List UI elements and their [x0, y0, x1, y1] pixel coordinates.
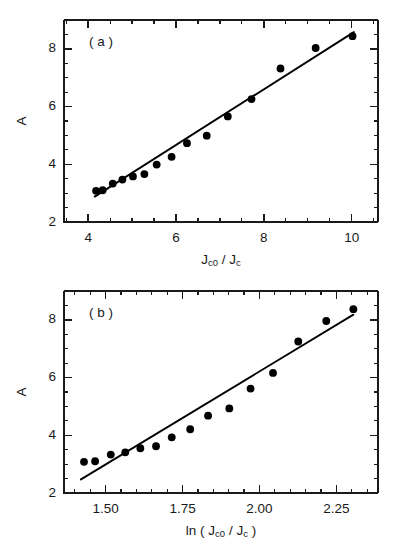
data-point — [168, 433, 176, 441]
fit-line — [81, 315, 353, 480]
x-tick-label: 1.50 — [92, 501, 118, 516]
data-point — [224, 112, 232, 120]
x-tick-label: 4 — [84, 230, 92, 245]
plot-frame — [64, 291, 378, 493]
y-tick-label: 6 — [48, 98, 56, 113]
data-point — [204, 412, 212, 420]
data-point — [248, 95, 256, 103]
plot-frame — [64, 20, 378, 222]
panel-a-plot: 468102468( a )AJc0 / Jc — [0, 0, 395, 272]
y-major-ticks: 2468 — [48, 311, 378, 499]
figure-container: 468102468( a )AJc0 / Jc 1.501.752.002.25… — [0, 0, 395, 543]
data-point — [92, 187, 100, 195]
x-major-ticks: 1.501.752.002.25 — [92, 291, 349, 516]
data-points — [80, 305, 357, 465]
panel-tag: ( a ) — [89, 34, 113, 49]
y-tick-label: 4 — [48, 156, 56, 171]
data-point — [186, 425, 194, 433]
data-point — [247, 385, 255, 393]
panel-tag: ( b ) — [89, 305, 113, 320]
panel-a: 468102468( a )AJc0 / Jc — [0, 0, 395, 272]
data-point — [153, 161, 161, 169]
y-axis-label: A — [14, 116, 29, 125]
data-point — [99, 186, 107, 194]
x-tick-label: 1.75 — [169, 501, 195, 516]
y-tick-label: 4 — [48, 427, 56, 442]
data-point — [225, 405, 233, 413]
data-point — [349, 305, 357, 313]
y-tick-label: 6 — [48, 369, 56, 384]
y-tick-label: 2 — [48, 485, 56, 500]
x-tick-label: 2.25 — [323, 501, 349, 516]
x-major-ticks: 46810 — [84, 20, 359, 245]
data-point — [277, 65, 285, 73]
data-point — [121, 448, 129, 456]
y-minor-ticks — [64, 20, 378, 222]
x-tick-label: 10 — [344, 230, 359, 245]
x-axis-label: ln ( Jc0 / Jc ) — [186, 523, 256, 539]
data-point — [294, 338, 302, 346]
data-point — [119, 176, 127, 184]
x-minor-ticks — [66, 20, 373, 222]
x-tick-label: 8 — [260, 230, 268, 245]
fit-line — [95, 32, 354, 196]
y-axis-label: A — [14, 387, 29, 396]
data-point — [136, 444, 144, 452]
data-point — [129, 173, 137, 181]
data-point — [349, 32, 357, 40]
x-tick-label: 6 — [172, 230, 180, 245]
data-point — [80, 458, 88, 466]
data-point — [203, 132, 211, 140]
y-tick-label: 2 — [48, 214, 56, 229]
data-point — [91, 457, 99, 465]
data-point — [312, 44, 320, 52]
y-tick-label: 8 — [48, 311, 56, 326]
y-minor-ticks — [64, 291, 378, 493]
data-point — [322, 317, 330, 325]
y-major-ticks: 2468 — [48, 40, 378, 228]
panel-b: 1.501.752.002.252468( b )Aln ( Jc0 / Jc … — [0, 271, 395, 543]
data-point — [269, 369, 277, 377]
data-point — [183, 139, 191, 147]
data-point — [107, 451, 115, 459]
data-point — [152, 442, 160, 450]
panel-b-plot: 1.501.752.002.252468( b )Aln ( Jc0 / Jc … — [0, 271, 395, 543]
x-axis-label: Jc0 / Jc — [201, 252, 241, 268]
data-point — [168, 153, 176, 161]
data-point — [140, 170, 148, 178]
y-tick-label: 8 — [48, 40, 56, 55]
data-point — [109, 180, 117, 188]
axis-spines-left-bottom — [64, 291, 378, 493]
axis-spines-left-bottom — [64, 20, 378, 222]
x-tick-label: 2.00 — [246, 501, 272, 516]
